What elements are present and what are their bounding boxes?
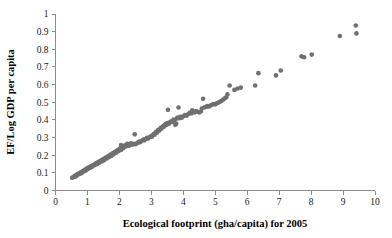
y-tick-label: 0.2	[37, 151, 49, 161]
data-points	[70, 23, 359, 180]
data-point	[354, 23, 359, 28]
data-point	[201, 96, 206, 101]
y-axis	[52, 14, 56, 191]
y-tick-label: 1	[44, 9, 49, 19]
y-tick-label: 0	[44, 186, 49, 196]
x-tick-label: 8	[309, 197, 314, 207]
y-tick-label: 0.1	[37, 168, 49, 178]
data-point	[278, 68, 283, 73]
y-tick-labels: 00.10.20.30.40.50.60.70.80.91	[37, 9, 49, 196]
data-point	[302, 55, 307, 60]
x-tick-label: 6	[245, 197, 250, 207]
data-point	[253, 83, 258, 88]
y-tick-label: 0.8	[37, 45, 49, 55]
data-point	[174, 121, 179, 126]
data-point	[166, 108, 171, 113]
x-tick-label: 2	[117, 197, 122, 207]
data-point	[309, 52, 314, 57]
data-point	[176, 105, 181, 110]
data-point	[256, 71, 261, 76]
x-tick-marks	[56, 191, 376, 195]
data-point	[338, 34, 343, 39]
x-tick-label: 7	[277, 197, 282, 207]
data-point	[274, 73, 279, 78]
scatter-chart: 00.10.20.30.40.50.60.70.80.91 0123456789…	[0, 0, 392, 238]
y-tick-label: 0.6	[37, 80, 49, 90]
x-tick-labels: 012345678910	[53, 197, 380, 207]
y-tick-label: 0.5	[37, 98, 49, 108]
data-point	[132, 132, 137, 137]
y-tick-label: 0.4	[37, 115, 49, 125]
chart-canvas: 00.10.20.30.40.50.60.70.80.91 0123456789…	[0, 0, 392, 238]
x-axis	[56, 191, 376, 195]
data-point	[239, 85, 244, 90]
y-tick-label: 0.3	[37, 133, 49, 143]
y-tick-marks	[52, 14, 56, 191]
y-tick-label: 0.9	[37, 27, 49, 37]
x-tick-label: 10	[370, 197, 380, 207]
x-tick-label: 1	[85, 197, 90, 207]
x-tick-label: 5	[213, 197, 218, 207]
y-axis-title: EF/Log GDP per capita	[5, 48, 16, 154]
x-tick-label: 0	[53, 197, 58, 207]
y-tick-label: 0.7	[37, 62, 49, 72]
data-point	[227, 83, 232, 88]
data-point	[225, 92, 230, 97]
x-tick-label: 9	[341, 197, 346, 207]
data-point	[354, 31, 359, 36]
x-axis-title: Ecological footprint (gha/capita) for 20…	[123, 218, 308, 230]
x-tick-label: 3	[149, 197, 154, 207]
x-tick-label: 4	[181, 197, 186, 207]
